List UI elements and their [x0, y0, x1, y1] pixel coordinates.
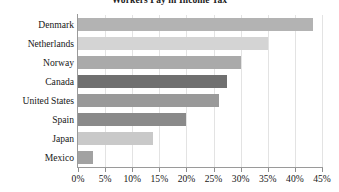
x-tick-mark	[78, 168, 79, 172]
category-axis-labels: DenmarkNetherlandsNorwayCanadaUnited Sta…	[0, 15, 74, 167]
bar[interactable]	[78, 18, 313, 31]
x-tick-mark	[214, 168, 215, 172]
category-label-netherlands: Netherlands	[0, 34, 74, 53]
bar-row	[78, 91, 322, 110]
category-label-united-states: United States	[0, 91, 74, 110]
chart-title: Workers Pay in Income Tax	[0, 0, 339, 5]
bar-row	[78, 148, 322, 167]
x-tick-label: 45%	[302, 173, 339, 184]
category-label-canada: Canada	[0, 72, 74, 91]
bar-row	[78, 129, 322, 148]
category-label-japan: Japan	[0, 129, 74, 148]
plot-area	[78, 15, 322, 167]
x-tick-mark	[132, 168, 133, 172]
bar[interactable]	[78, 56, 241, 69]
x-axis-line	[77, 167, 323, 168]
bar-row	[78, 15, 322, 34]
gridline	[322, 15, 323, 167]
category-label-denmark: Denmark	[0, 15, 74, 34]
x-tick-mark	[105, 168, 106, 172]
bar[interactable]	[78, 113, 186, 126]
bar-row	[78, 72, 322, 91]
bar-chart: Workers Pay in Income Tax DenmarkNetherl…	[0, 0, 339, 192]
bar[interactable]	[78, 75, 227, 88]
x-tick-mark	[159, 168, 160, 172]
bar-row	[78, 53, 322, 72]
bar[interactable]	[78, 151, 93, 164]
bar-row	[78, 110, 322, 129]
x-tick-mark	[322, 168, 323, 172]
x-tick-mark	[295, 168, 296, 172]
bar[interactable]	[78, 37, 268, 50]
category-label-mexico: Mexico	[0, 148, 74, 167]
x-tick-mark	[186, 168, 187, 172]
bar[interactable]	[78, 132, 153, 145]
x-tick-mark	[268, 168, 269, 172]
category-label-norway: Norway	[0, 53, 74, 72]
category-label-spain: Spain	[0, 110, 74, 129]
x-tick-mark	[241, 168, 242, 172]
bar-row	[78, 34, 322, 53]
bar[interactable]	[78, 94, 219, 107]
